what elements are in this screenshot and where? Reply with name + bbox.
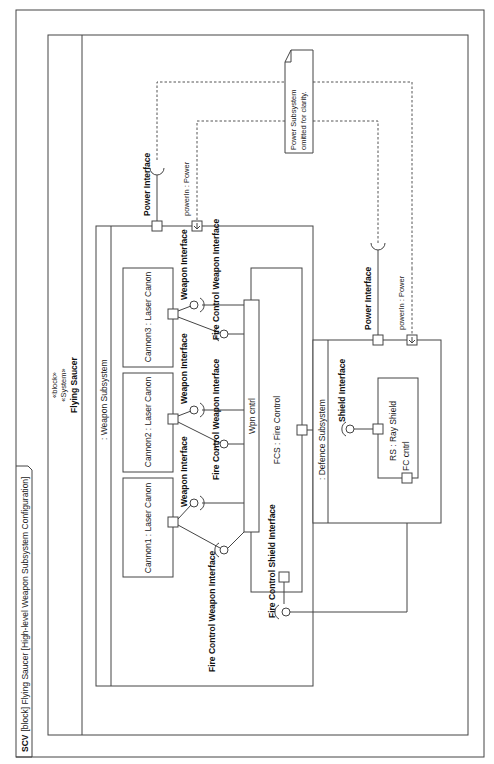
defence-power-interface-port[interactable] [373, 335, 383, 345]
cannon1-weapon-interface-port[interactable] [168, 517, 178, 527]
cannon3-weapon-interface-port[interactable] [168, 309, 178, 319]
cannon3-weapon-interface-label: Weapon Interface [179, 229, 189, 300]
block-diagram-canvas: SCV[block] Flying Saucer [High-level Wea… [0, 0, 494, 764]
weapon-power-in-label: powerIn : Power [182, 161, 191, 216]
ray-shield-interface-port[interactable] [373, 424, 383, 434]
fc-weapon-interface-label-1: Fire Control Weapon Interface [207, 551, 217, 672]
weapon-subsystem-name: : Weapon Subsystem [99, 359, 109, 440]
cannon2-weapon-interface-port[interactable] [168, 414, 178, 424]
weapon-power-interface-port[interactable] [152, 221, 162, 231]
ray-shield-part[interactable]: RS : Ray Shield FC cntrl [378, 378, 418, 478]
frame-title: SCV[block] Flying Saucer [High-level Wea… [20, 477, 30, 752]
defence-power-interface-label: Power Interface [363, 266, 373, 330]
fire-control-name: FCS : Fire Control [272, 396, 282, 465]
note-line-1: Power Subsystem [289, 90, 298, 150]
cannon3-name: Cannon3 : Laser Canon [143, 272, 153, 363]
cannon1-part[interactable]: Cannon1 : Laser Canon [123, 478, 173, 577]
fc-shield-interface-label: Fire Control Shield Interface [267, 504, 277, 618]
system-name: Flying Saucer [69, 356, 79, 412]
cannon1-weapon-interface-label: Weapon Interface [179, 436, 189, 507]
fc-weapon-interface-label-2: Fire Control Weapon Interface [211, 359, 221, 480]
frame-kind: SCV [20, 734, 30, 752]
weapon-power-interface-label: Power Interface [142, 152, 152, 216]
fc-weapon-interface-label-3: Fire Control Weapon Interface [211, 219, 221, 340]
wpn-cntrl-label: Wpn cntrl [247, 398, 257, 434]
fc-shield-interface-port[interactable] [279, 572, 289, 582]
fc-cntrl-label: FC cntrl [401, 441, 411, 471]
shield-interface-label: Shield Interface [337, 358, 347, 422]
note-line-2: omitted for clarity. [299, 91, 308, 150]
cannon2-part[interactable]: Cannon2 : Laser Canon [123, 373, 173, 472]
defence-power-in-label: powerIn : Power [397, 275, 406, 330]
defence-subsystem-name: : Defence Subsystem [317, 399, 327, 480]
ray-shield-name: RS : Ray Shield [388, 401, 398, 461]
frame-title-text: [block] Flying Saucer [High-level Weapon… [20, 477, 30, 732]
block-stereotype: «block» [50, 372, 59, 398]
fc-cntrl-port[interactable] [402, 473, 412, 483]
cannon2-weapon-interface-label: Weapon Interface [179, 333, 189, 404]
cannon2-name: Cannon2 : Laser Canon [143, 377, 153, 468]
cannon3-part[interactable]: Cannon3 : Laser Canon [123, 268, 173, 367]
fcs-defence-port[interactable] [297, 425, 307, 435]
cannon1-name: Cannon1 : Laser Canon [143, 483, 153, 574]
note-power-subsystem[interactable]: Power Subsystem omitted for clarity. [285, 50, 313, 153]
system-stereotype: «System» [59, 368, 68, 401]
